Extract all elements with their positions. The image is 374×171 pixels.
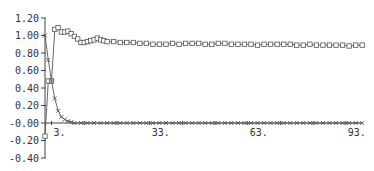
square-marker xyxy=(314,43,318,47)
square-marker xyxy=(321,43,325,47)
square-marker xyxy=(216,41,220,45)
y-tick-label: 0.60 xyxy=(15,65,39,76)
square-marker xyxy=(170,41,174,45)
line-chart: 1.201.000.800.600.400.20-0.00-0.20-0.40 … xyxy=(0,0,374,171)
y-axis: 1.201.000.800.600.400.20-0.00-0.20-0.40 xyxy=(9,13,46,164)
square-marker xyxy=(353,43,357,47)
square-marker xyxy=(203,42,207,46)
square-marker xyxy=(157,42,161,46)
y-tick-label: 0.80 xyxy=(15,48,39,59)
square-marker xyxy=(249,42,253,46)
square-marker xyxy=(255,43,259,47)
square-marker xyxy=(262,42,266,46)
square-marker xyxy=(131,40,135,44)
square-marker xyxy=(43,134,47,138)
square-marker xyxy=(210,42,214,46)
x-tick-label: 63. xyxy=(250,127,268,138)
square-marker xyxy=(295,43,299,47)
y-tick-label: 0.20 xyxy=(15,100,39,111)
square-marker xyxy=(183,41,187,45)
square-marker xyxy=(229,42,233,46)
square-marker xyxy=(347,44,351,48)
y-tick-label: 0.40 xyxy=(15,83,39,94)
y-tick-label: -0.20 xyxy=(9,135,39,146)
square-marker xyxy=(125,40,129,44)
x-marker xyxy=(59,115,63,119)
square-marker xyxy=(268,42,272,46)
y-tick-label: -0.00 xyxy=(9,118,39,129)
square-marker xyxy=(308,42,312,46)
x-tick-label: 93. xyxy=(348,127,366,138)
square-marker xyxy=(327,43,331,47)
square-marker xyxy=(196,41,200,45)
y-tick-label: 1.00 xyxy=(15,30,39,41)
square-marker xyxy=(236,42,240,46)
square-marker xyxy=(56,25,60,29)
square-marker xyxy=(360,43,364,47)
series-layer xyxy=(43,25,365,138)
square-marker xyxy=(138,41,142,45)
square-marker xyxy=(177,42,181,46)
square-marker xyxy=(282,42,286,46)
square-marker xyxy=(164,42,168,46)
square-marker xyxy=(334,43,338,47)
square-marker xyxy=(242,42,246,46)
square-marker xyxy=(118,40,122,44)
square-marker xyxy=(340,43,344,47)
x-tick-label: 3. xyxy=(54,127,66,138)
y-tick-label: 1.20 xyxy=(15,13,39,24)
square-marker xyxy=(288,42,292,46)
square-marker xyxy=(223,41,227,45)
square-marker xyxy=(301,43,305,47)
square-marker xyxy=(105,39,109,43)
x-tick-label: 33. xyxy=(152,127,170,138)
square-marker xyxy=(111,39,115,43)
square-marker xyxy=(144,41,148,45)
y-tick-label: -0.40 xyxy=(9,153,39,164)
square-marker xyxy=(275,42,279,46)
square-marker xyxy=(190,41,194,45)
square-marker xyxy=(151,42,155,46)
